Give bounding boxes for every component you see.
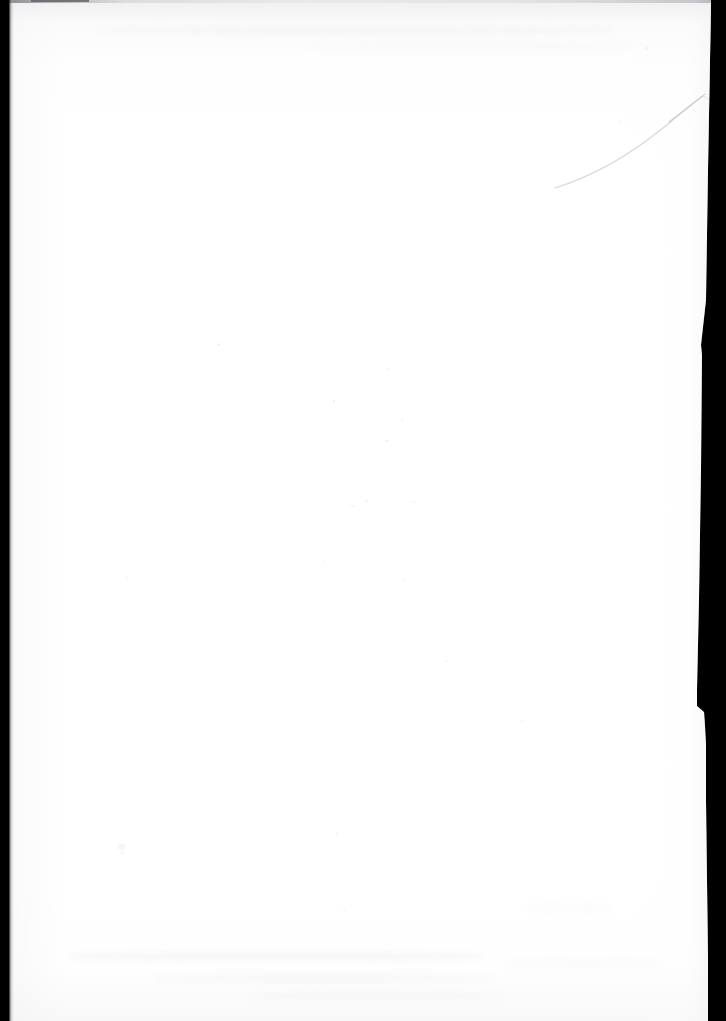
scanner-smudge — [505, 960, 665, 967]
paper-tone-overlay — [5, 0, 726, 1021]
scanner-speckle — [335, 832, 338, 835]
scanner-speckle — [520, 720, 524, 722]
scanner-speckle — [125, 576, 128, 579]
scanner-smudge — [155, 975, 495, 982]
scanner-speckle — [365, 500, 368, 502]
scanner-speckle — [218, 343, 220, 346]
scanner-smudge — [245, 993, 505, 999]
page-content-text — [5, 0, 6, 1]
scanner-speckle — [618, 120, 621, 123]
scanner-smudge — [95, 25, 615, 35]
scanner-speckle — [385, 440, 389, 442]
scanner-speckle — [445, 660, 448, 662]
scanner-speckle — [401, 419, 403, 422]
scanned-page-canvas: Blank scanned page — [0, 0, 726, 1021]
scanner-smudge — [525, 905, 615, 911]
left-gutter-shadow — [5, 0, 14, 1021]
scanner-speckle — [403, 578, 405, 581]
top-edge-smudge — [31, 0, 89, 2]
scanner-speckle — [413, 501, 415, 503]
scanner-speckle — [333, 400, 335, 402]
scanner-speckle — [118, 844, 125, 850]
scanner-speckle — [343, 908, 346, 911]
top-edge-line — [5, 0, 711, 3]
scanner-speckle — [350, 505, 355, 507]
scanner-smudge — [305, 42, 635, 50]
scanner-speckle — [121, 851, 124, 855]
scanner-speckle — [386, 368, 389, 370]
scanner-speckle — [323, 561, 325, 563]
paper-sheet — [5, 0, 726, 1021]
diagonal-crease-icon — [553, 92, 723, 192]
scanner-smudge — [65, 952, 485, 961]
scanner-speckle — [645, 45, 648, 51]
